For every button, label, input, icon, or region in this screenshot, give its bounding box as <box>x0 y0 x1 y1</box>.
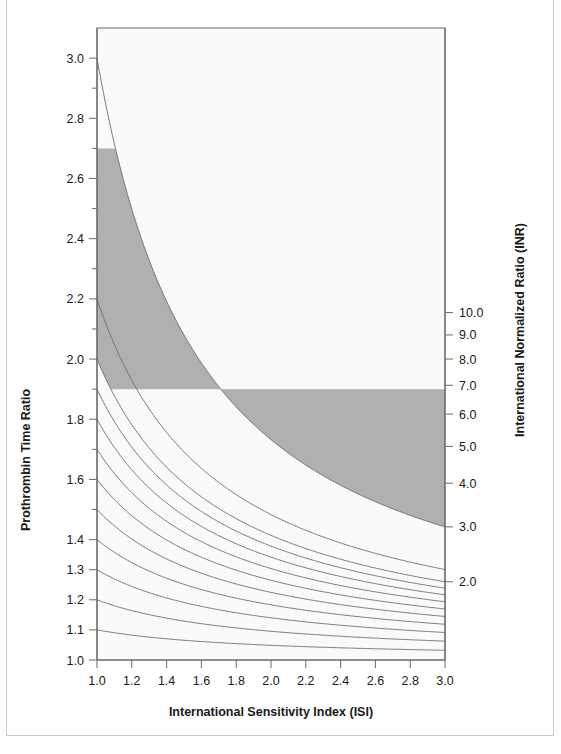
bottom-tick-label-2.4: 2.4 <box>332 674 349 688</box>
left-tick-label-1.3: 1.3 <box>67 563 84 577</box>
right-tick-label-10: 10.0 <box>459 306 483 320</box>
right-axis-title: International Normalized Ratio (INR) <box>513 223 527 437</box>
bottom-tick-label-2.2: 2.2 <box>297 674 314 688</box>
left-tick-label-2.8: 2.8 <box>67 112 84 126</box>
left-tick-label-1.4: 1.4 <box>67 533 84 547</box>
bottom-tick-label-2.8: 2.8 <box>402 674 419 688</box>
bottom-axis-title: International Sensitivity Index (ISI) <box>169 705 373 719</box>
right-tick-label-5: 5.0 <box>459 440 476 454</box>
right-axis-ticks: 2.03.04.05.06.07.08.09.010.0 <box>445 306 483 589</box>
left-tick-label-1.1: 1.1 <box>67 623 84 637</box>
bottom-tick-label-2: 2.0 <box>262 674 279 688</box>
bottom-tick-label-2.6: 2.6 <box>367 674 384 688</box>
left-tick-label-2.2: 2.2 <box>67 292 84 306</box>
chart-svg: 1.01.11.21.31.41.61.82.02.22.42.62.83.0 … <box>0 0 561 754</box>
left-tick-label-1.2: 1.2 <box>67 593 84 607</box>
bottom-tick-label-1.2: 1.2 <box>123 674 140 688</box>
left-tick-label-2.4: 2.4 <box>67 232 84 246</box>
bottom-tick-label-1.6: 1.6 <box>193 674 210 688</box>
left-tick-label-2: 2.0 <box>67 353 84 367</box>
right-tick-label-2: 2.0 <box>459 575 476 589</box>
right-tick-label-7: 7.0 <box>459 379 476 393</box>
right-tick-label-4: 4.0 <box>459 477 476 491</box>
left-tick-label-1: 1.0 <box>67 654 84 668</box>
nomogram-chart: 1.01.11.21.31.41.61.82.02.22.42.62.83.0 … <box>0 0 561 754</box>
right-tick-label-9: 9.0 <box>459 328 476 342</box>
left-tick-label-1.6: 1.6 <box>67 473 84 487</box>
bottom-tick-label-3: 3.0 <box>436 674 453 688</box>
right-tick-label-3: 3.0 <box>459 520 476 534</box>
left-tick-label-3: 3.0 <box>67 52 84 66</box>
left-axis-ticks: 1.01.11.21.31.41.61.82.02.22.42.62.83.0 <box>67 52 97 668</box>
right-tick-label-6: 6.0 <box>459 408 476 422</box>
bottom-tick-label-1: 1.0 <box>88 674 105 688</box>
left-axis-title: Prothrombin Time Ratio <box>19 389 33 532</box>
left-tick-label-1.8: 1.8 <box>67 413 84 427</box>
right-tick-label-8: 8.0 <box>459 353 476 367</box>
bottom-axis-ticks: 1.01.21.41.61.82.02.22.42.62.83.0 <box>88 660 453 688</box>
left-tick-label-2.6: 2.6 <box>67 172 84 186</box>
bottom-tick-label-1.4: 1.4 <box>158 674 175 688</box>
bottom-tick-label-1.8: 1.8 <box>228 674 245 688</box>
